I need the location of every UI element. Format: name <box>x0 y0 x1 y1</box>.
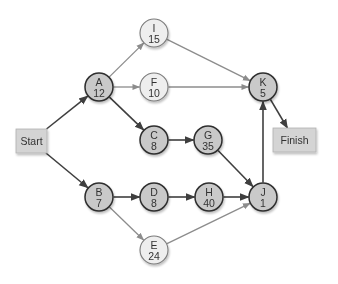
arrow-start-to-a <box>47 96 88 129</box>
node-duration: 7 <box>96 197 102 209</box>
node-d: D8 <box>140 183 168 211</box>
start-box: Start <box>16 129 47 153</box>
node-k: K5 <box>249 73 277 101</box>
node-duration: 8 <box>151 140 157 152</box>
arrow-start-to-b <box>46 153 88 188</box>
start-label: Start <box>20 135 42 147</box>
node-duration: 8 <box>151 197 157 209</box>
node-name: B <box>95 186 102 198</box>
node-name: E <box>150 239 157 251</box>
finish-label: Finish <box>280 134 308 146</box>
node-e: E24 <box>140 236 168 264</box>
network-diagram: StartFinish A12B7C8D8E24F10G35H40I15J1K5 <box>0 0 338 284</box>
arrow-b-to-e <box>109 207 143 240</box>
node-duration: 24 <box>148 250 160 262</box>
node-name: K <box>259 76 266 88</box>
node-name: H <box>205 186 213 198</box>
node-name: F <box>151 76 157 88</box>
node-b: B7 <box>85 183 113 211</box>
node-duration: 10 <box>148 87 160 99</box>
node-a: A12 <box>85 73 113 101</box>
node-duration: 35 <box>202 140 214 152</box>
arrow-i-to-k <box>167 39 250 80</box>
node-duration: 12 <box>93 87 105 99</box>
node-name: D <box>150 186 158 198</box>
node-duration: 15 <box>148 33 160 45</box>
arrow-a-to-i <box>109 43 143 77</box>
nodes-layer: A12B7C8D8E24F10G35H40I15J1K5 <box>85 19 277 264</box>
node-name: G <box>204 129 212 141</box>
arrow-k-to-finish <box>270 99 287 128</box>
node-g: G35 <box>194 126 222 154</box>
arrow-a-to-c <box>109 97 143 130</box>
node-name: J <box>260 186 265 198</box>
node-f: F10 <box>140 73 168 101</box>
arrow-g-to-j <box>218 150 253 186</box>
node-i: I15 <box>140 19 168 47</box>
node-duration: 1 <box>260 197 266 209</box>
node-name: I <box>153 22 156 34</box>
node-j: J1 <box>249 183 277 211</box>
node-name: C <box>150 129 158 141</box>
node-duration: 5 <box>260 87 266 99</box>
node-name: A <box>95 76 102 88</box>
node-h: H40 <box>195 183 223 211</box>
node-c: C8 <box>140 126 168 154</box>
finish-box: Finish <box>273 128 316 152</box>
node-duration: 40 <box>203 197 215 209</box>
